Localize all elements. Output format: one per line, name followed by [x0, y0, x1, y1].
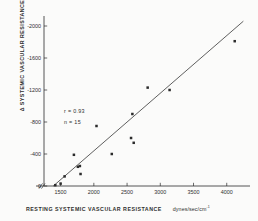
data-point — [79, 165, 82, 168]
plot-axes — [36, 16, 250, 189]
x-tick-label: 4000 — [216, 189, 238, 195]
annotation-correlation: r = 0.93 — [64, 108, 85, 114]
data-point — [63, 175, 66, 178]
x-axis-title: RESTING SYSTEMIC VASCULAR RESISTANCE dyn… — [26, 205, 258, 212]
data-point — [111, 153, 114, 156]
data-point — [59, 182, 62, 185]
data-point — [131, 113, 134, 116]
data-point — [130, 137, 133, 140]
x-axis-unit-exponent: -1 — [206, 205, 209, 209]
data-point — [132, 142, 135, 145]
tick-marks — [44, 26, 227, 186]
x-tick-label: 2500 — [116, 189, 138, 195]
x-tick-label: 3000 — [149, 189, 171, 195]
data-point — [95, 125, 98, 128]
y-tick-label: -800 — [0, 119, 41, 125]
y-tick-label: -2000 — [0, 23, 41, 29]
y-tick-label: -400 — [0, 151, 41, 157]
data-point — [168, 89, 171, 92]
data-point — [54, 184, 57, 187]
figure-root: Δ SYSTEMIC VASCULAR RESISTANCE dynes/sec… — [0, 0, 258, 221]
x-axis-title-text: RESTING SYSTEMIC VASCULAR RESISTANCE — [26, 206, 162, 212]
data-point — [146, 86, 149, 89]
x-tick-label: 3500 — [183, 189, 205, 195]
x-axis-unit-text: dynes/sec/cm — [173, 206, 207, 212]
x-tick-label: 1500 — [50, 189, 72, 195]
y-tick-label: 0 — [0, 183, 41, 189]
x-axis-unit: dynes/sec/cm-1 — [173, 206, 210, 212]
y-tick-label: -1200 — [0, 87, 41, 93]
regression-line — [53, 21, 243, 186]
data-point — [233, 40, 236, 43]
y-tick-label: -1600 — [0, 55, 41, 61]
x-tick-label: 2000 — [83, 189, 105, 195]
data-point — [79, 173, 82, 176]
annotation-sample-size: n = 15 — [64, 119, 81, 125]
data-point — [73, 154, 76, 157]
